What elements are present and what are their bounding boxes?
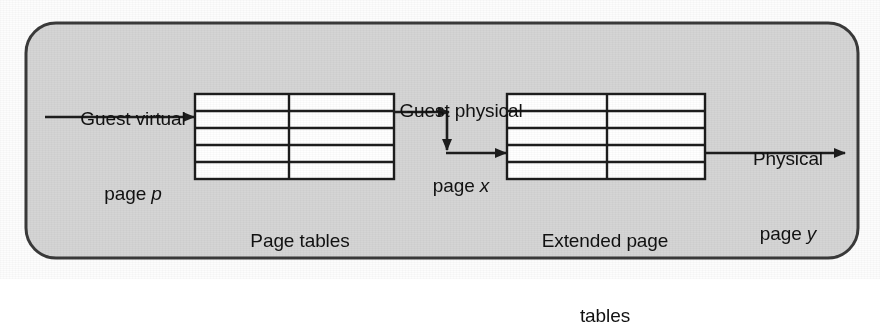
label-guest-virtual-prefix: page <box>104 183 151 204</box>
caption-page-tables-line1: Page tables <box>205 228 395 253</box>
label-guest-physical-prefix: page <box>433 175 480 196</box>
label-physical-page: Physical page y <box>718 96 858 296</box>
label-guest-physical-line1: Guest physical <box>372 98 550 123</box>
caption-page-tables: Page tables <box>205 178 395 303</box>
label-physical-variable: y <box>807 223 816 244</box>
label-physical-line2: page y <box>718 221 858 246</box>
label-guest-virtual-variable: p <box>151 183 161 204</box>
caption-ept-line2: tables <box>495 303 715 326</box>
caption-ept-line1: Extended page <box>495 228 715 253</box>
caption-extended-page-tables: Extended page tables <box>495 178 715 326</box>
label-physical-line1: Physical <box>718 146 858 171</box>
label-guest-physical-variable: x <box>480 175 489 196</box>
label-guest-virtual-line2: page p <box>48 181 218 206</box>
label-physical-prefix: page <box>760 223 807 244</box>
label-guest-virtual-page: Guest virtual page p <box>48 56 218 256</box>
page-tables-table <box>195 94 394 179</box>
label-guest-virtual-line1: Guest virtual <box>48 106 218 131</box>
